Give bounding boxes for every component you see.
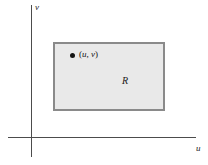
u-axis-label: u xyxy=(196,144,201,153)
u-axis-line xyxy=(8,137,196,138)
region-rectangle xyxy=(53,42,165,111)
v-axis-label: v xyxy=(35,3,39,12)
point-coordinate-label: (u, v) xyxy=(79,50,98,59)
region-label: R xyxy=(122,76,128,86)
point-marker-icon xyxy=(70,53,75,58)
point-close-paren: ) xyxy=(95,49,98,59)
v-axis-line xyxy=(31,5,32,157)
uv-plane-figure: v u R (u, v) xyxy=(0,0,208,165)
